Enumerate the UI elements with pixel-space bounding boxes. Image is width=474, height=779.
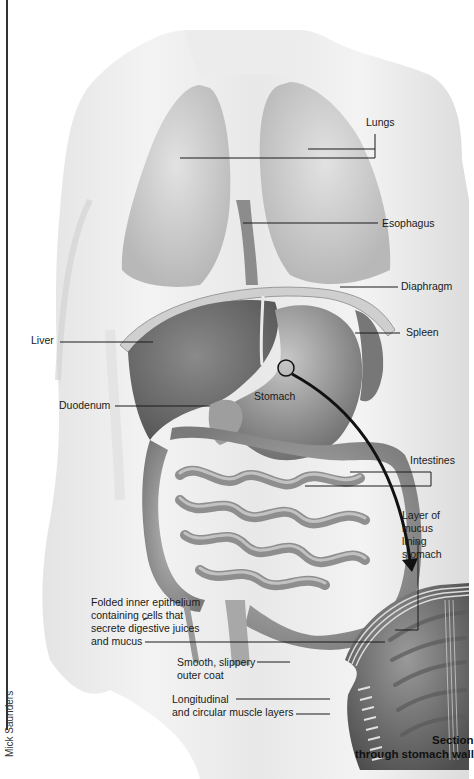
label-lungs: Lungs bbox=[366, 116, 395, 129]
figure-title-line-2: through stomach wall bbox=[355, 748, 474, 761]
label-esophagus: Esophagus bbox=[382, 217, 435, 230]
label-outer-coat: Smooth, slippery outer coat bbox=[177, 656, 255, 682]
label-duodenum: Duodenum bbox=[59, 399, 110, 412]
label-mucus-layer: Layer of mucus lining stomach bbox=[402, 509, 469, 561]
figure-title-line-1: Section bbox=[432, 734, 474, 747]
label-diaphragm: Diaphragm bbox=[401, 280, 452, 293]
illustrator-credit: Mick Saunders bbox=[4, 691, 15, 757]
label-spleen: Spleen bbox=[406, 326, 439, 339]
label-intestines: Intestines bbox=[410, 454, 455, 467]
label-muscle-layers: Longitudinal and circular muscle layers bbox=[172, 693, 293, 719]
label-liver: Liver bbox=[31, 334, 54, 347]
label-stomach: Stomach bbox=[254, 390, 295, 403]
label-inner-epithelium: Folded inner epithelium containing cells… bbox=[91, 596, 200, 648]
